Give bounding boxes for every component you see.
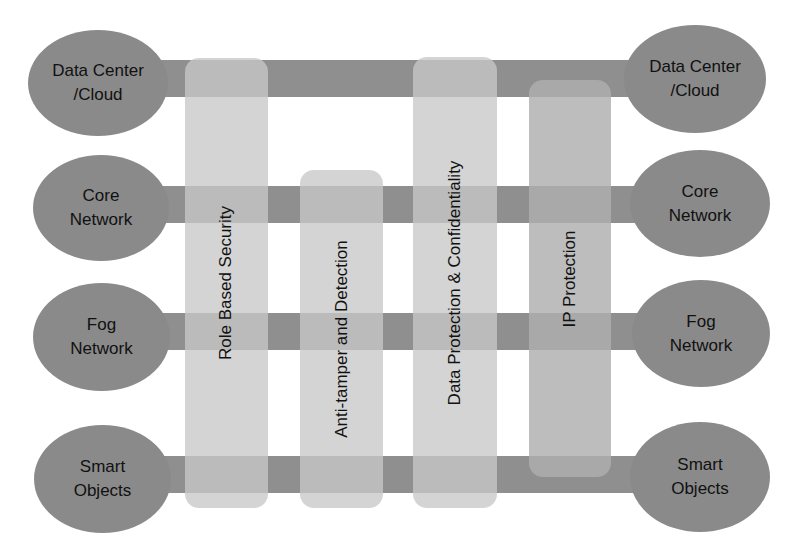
column-ip-protection: IP Protection — [529, 80, 611, 477]
column-anti-tamper-detection: Anti-tamper and Detection — [300, 170, 383, 508]
right-node-data-center: Data Center /Cloud — [624, 25, 766, 133]
right-node-core-network: Core Network — [630, 150, 770, 257]
left-node-smart-objects: Smart Objects — [34, 425, 171, 533]
column-role-based-security-label: Role Based Security — [217, 206, 237, 360]
left-node-data-center: Data Center /Cloud — [28, 30, 168, 136]
left-node-data-center-label: Data Center /Cloud — [52, 59, 144, 107]
left-node-smart-objects-label: Smart Objects — [74, 455, 132, 503]
column-role-based-security: Role Based Security — [185, 58, 268, 508]
left-node-fog-network-label: Fog Network — [70, 313, 132, 361]
right-node-smart-objects: Smart Objects — [630, 422, 770, 532]
column-data-protection-confidentiality: Data Protection & Confidentiality — [413, 57, 497, 508]
right-node-data-center-label: Data Center /Cloud — [649, 55, 741, 103]
column-anti-tamper-detection-label: Anti-tamper and Detection — [332, 240, 352, 438]
right-node-fog-network-label: Fog Network — [670, 310, 732, 358]
right-node-fog-network: Fog Network — [632, 280, 770, 387]
left-node-fog-network: Fog Network — [33, 283, 170, 391]
left-node-core-network-label: Core Network — [70, 184, 132, 232]
column-data-protection-confidentiality-label: Data Protection & Confidentiality — [445, 160, 465, 405]
left-node-core-network: Core Network — [33, 155, 169, 261]
column-ip-protection-label: IP Protection — [560, 230, 580, 327]
right-node-core-network-label: Core Network — [669, 180, 731, 228]
right-node-smart-objects-label: Smart Objects — [671, 453, 729, 501]
